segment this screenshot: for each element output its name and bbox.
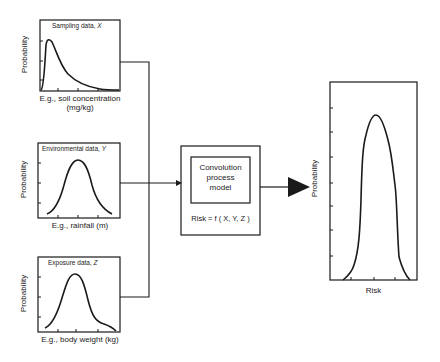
sampling-data-chart bbox=[40, 20, 120, 91]
risk-formula: Risk = f ( X, Y, Z ) bbox=[181, 214, 260, 223]
risk-chart bbox=[330, 82, 417, 280]
exposure-data-y-label: Probability bbox=[19, 264, 28, 324]
sampling-data-y-label: Probability bbox=[20, 25, 29, 85]
sampling-data-title: Sampling data, X bbox=[52, 22, 102, 29]
environmental-data-title: Environmental data, Y bbox=[42, 145, 106, 152]
bell-curve bbox=[45, 274, 116, 331]
exposure-data-x-label: E.g., body weight (kg) bbox=[20, 335, 140, 344]
environmental-data-x-label: E.g., rainfall (m) bbox=[20, 221, 140, 230]
sampling-data-x-label: E.g., soil concentration(mg/kg) bbox=[20, 94, 140, 112]
risk-y-label: Probability bbox=[310, 149, 319, 209]
exposure-data-title: Exposure data, Z bbox=[48, 259, 98, 266]
environmental-data-chart bbox=[38, 143, 120, 218]
risk-distribution-curve bbox=[343, 115, 410, 280]
risk-x-label: Risk bbox=[330, 286, 417, 295]
environmental-data-y-label: Probability bbox=[19, 150, 28, 210]
skewed-distribution-curve bbox=[41, 40, 119, 90]
convolution-model-label: Convolution process model bbox=[191, 163, 250, 193]
bell-curve bbox=[47, 160, 112, 214]
output-arrow bbox=[260, 177, 310, 197]
exposure-data-chart bbox=[38, 257, 120, 332]
arrowhead-large bbox=[288, 177, 310, 197]
